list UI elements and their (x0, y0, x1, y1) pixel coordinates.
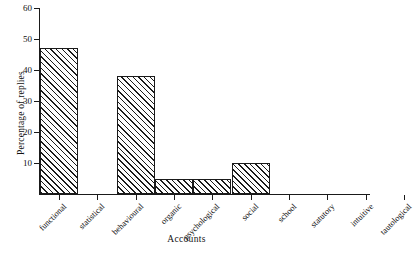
plot-area (40, 8, 370, 194)
bar-organic (155, 179, 193, 195)
x-axis-tick (327, 195, 328, 200)
x-axis-line (39, 194, 370, 195)
y-axis-tick-label: 10 (6, 159, 32, 168)
x-axis-label-text: statistical (78, 202, 107, 231)
x-axis-tick (97, 195, 98, 200)
x-axis-label-text: functional (38, 202, 69, 233)
y-axis-tick-label: 30 (6, 97, 32, 106)
x-axis-label-text: organic (159, 202, 183, 226)
x-axis-tick (136, 195, 137, 200)
x-axis-tick (59, 195, 60, 200)
bar-social (232, 163, 270, 194)
x-axis-title: Accounts (0, 234, 373, 244)
bar-psychological (193, 179, 231, 195)
y-axis-tick-label: 50 (6, 35, 32, 44)
x-axis-tick (251, 195, 252, 200)
x-axis-label-text: behavioural (110, 202, 145, 237)
x-axis-label-text: school (276, 202, 298, 224)
bar-behavioural (117, 76, 155, 194)
bar-functional (40, 48, 78, 194)
x-axis-tick (212, 195, 213, 200)
x-axis-label-text: intuitive (349, 202, 375, 228)
x-axis-label-text: tautological (378, 202, 413, 237)
y-axis-tick-label: 60 (6, 4, 32, 13)
x-axis-label-text: statutory (309, 202, 336, 229)
x-axis-label-text: social (240, 202, 260, 222)
x-axis-tick (404, 195, 405, 200)
y-axis-tick-label: 40 (6, 66, 32, 75)
x-axis-tick (174, 195, 175, 200)
y-axis-tick-label: 20 (6, 128, 32, 137)
x-axis-tick (366, 195, 367, 200)
x-axis-tick (289, 195, 290, 200)
